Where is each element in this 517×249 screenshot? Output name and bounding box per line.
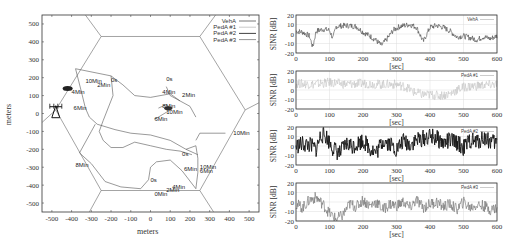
svg-text:PedA #3: PedA #3 [461,185,479,190]
svg-text:-300: -300 [85,215,98,223]
svg-text:-20: -20 [285,162,295,170]
svg-text:0s: 0s [111,77,117,83]
svg-text:-300: -300 [26,164,39,172]
svg-text:500: 500 [29,20,40,28]
svg-text:[sec]: [sec] [389,230,404,239]
svg-text:0: 0 [294,55,298,63]
svg-text:[sec]: [sec] [389,62,404,71]
svg-text:-10: -10 [285,208,295,216]
svg-text:-10: -10 [285,96,295,104]
svg-text:200: 200 [358,223,369,231]
svg-text:-100: -100 [26,128,39,136]
svg-text:0s: 0s [182,151,188,157]
svg-text:PedA #2: PedA #2 [461,129,479,134]
sinr-panel-1: 010020030040050060020100-10-20VehA[sec]S… [269,12,503,72]
svg-text:VehA: VehA [467,17,478,22]
svg-text:PedA #1: PedA #1 [461,73,479,78]
svg-text:PedA #1: PedA #1 [213,24,236,30]
svg-text:-400: -400 [65,215,78,223]
svg-text:-20: -20 [285,106,295,114]
svg-text:-500: -500 [26,200,39,208]
map-xlabel: meters [137,227,158,236]
svg-text:0s: 0s [166,76,172,82]
svg-text:0: 0 [291,87,295,95]
svg-text:0: 0 [36,110,40,118]
svg-text:0: 0 [294,223,298,231]
svg-text:200: 200 [358,55,369,63]
svg-text:300: 300 [204,215,215,223]
svg-text:-10: -10 [285,40,295,48]
svg-text:0: 0 [291,31,295,39]
svg-text:10Min: 10Min [200,164,216,170]
svg-text:SINR [dB]: SINR [dB] [269,186,278,219]
svg-text:400: 400 [29,38,40,46]
svg-text:600: 600 [492,111,503,119]
svg-text:-200: -200 [105,215,118,223]
svg-text:-20: -20 [285,218,295,226]
svg-text:200: 200 [358,167,369,175]
svg-text:100: 100 [324,223,335,231]
svg-text:8Min: 8Min [76,162,89,168]
svg-text:10: 10 [287,21,295,29]
svg-text:-100: -100 [124,215,137,223]
svg-text:0Min: 0Min [154,191,167,197]
svg-text:600: 600 [492,223,503,231]
svg-text:6Min: 6Min [74,105,87,111]
map-legend: VehAPedA #1PedA #2PedA #3 [213,18,256,43]
svg-text:6Min: 6Min [184,166,197,172]
svg-text:-400: -400 [26,182,39,190]
svg-text:500: 500 [244,215,255,223]
svg-text:-500: -500 [45,215,58,223]
svg-text:10: 10 [287,133,295,141]
map-ylabel: meters [4,104,13,125]
svg-text:20: 20 [287,124,295,132]
svg-text:2Min: 2Min [182,92,195,98]
sinr-panel-3: 010020030040050060020100-10-20PedA #2[se… [269,124,503,184]
svg-text:6Min: 6Min [154,116,167,122]
svg-text:600: 600 [492,55,503,63]
svg-text:-20: -20 [285,50,295,58]
svg-text:2Min: 2Min [97,82,110,88]
svg-text:2Min: 2Min [166,187,179,193]
svg-text:20: 20 [287,68,295,76]
svg-text:100: 100 [324,55,335,63]
svg-text:100: 100 [165,215,176,223]
sinr-panel-2: 010020030040050060020100-10-20PedA #1[se… [269,68,503,128]
svg-text:0: 0 [149,215,153,223]
svg-text:300: 300 [29,56,40,64]
svg-text:-200: -200 [26,146,39,154]
svg-text:200: 200 [29,74,40,82]
sinr-panel-4: 010020030040050060020100-10-20PedA #3[se… [269,180,503,240]
svg-text:4Min: 4Min [72,89,85,95]
svg-text:400: 400 [425,167,436,175]
svg-text:20: 20 [287,12,295,20]
svg-text:10: 10 [287,77,295,85]
svg-text:SINR [dB]: SINR [dB] [269,18,278,51]
svg-text:200: 200 [185,215,196,223]
map-plot: -500-400-300-200-10001002003004005005004… [26,15,259,223]
svg-text:PedA #2: PedA #2 [213,30,236,36]
svg-text:0: 0 [291,199,295,207]
svg-text:400: 400 [425,111,436,119]
svg-text:0: 0 [294,111,298,119]
svg-text:500: 500 [458,167,469,175]
svg-text:100: 100 [324,167,335,175]
trajectory-map-chart: -500-400-300-200-10001002003004005005004… [0,0,517,249]
svg-text:SINR [dB]: SINR [dB] [269,74,278,107]
svg-text:400: 400 [425,55,436,63]
svg-text:VehA: VehA [222,18,236,24]
svg-text:SINR [dB]: SINR [dB] [269,130,278,163]
svg-text:4Min: 4Min [162,89,175,95]
svg-text:0: 0 [291,143,295,151]
svg-text:500: 500 [458,55,469,63]
svg-text:0: 0 [294,167,298,175]
svg-text:100: 100 [324,111,335,119]
svg-text:10: 10 [287,189,295,197]
base-station-icon [50,104,62,118]
svg-text:500: 500 [458,223,469,231]
svg-text:10Min: 10Min [233,130,249,136]
svg-text:PedA #3: PedA #3 [213,37,236,43]
svg-text:600: 600 [492,167,503,175]
svg-text:10Min: 10Min [166,109,182,115]
svg-text:500: 500 [458,111,469,119]
